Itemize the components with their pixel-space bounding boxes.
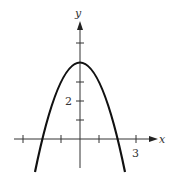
parabola-chart: y x 3 2 (0, 0, 171, 179)
x-axis-arrow-icon (149, 136, 158, 142)
x-axis-label: x (159, 133, 166, 146)
y-axis-label: y (74, 7, 82, 20)
x-tick-label-3: 3 (132, 147, 139, 160)
y-axis-arrow-icon (77, 21, 83, 30)
y-tick-label-2: 2 (65, 95, 72, 108)
